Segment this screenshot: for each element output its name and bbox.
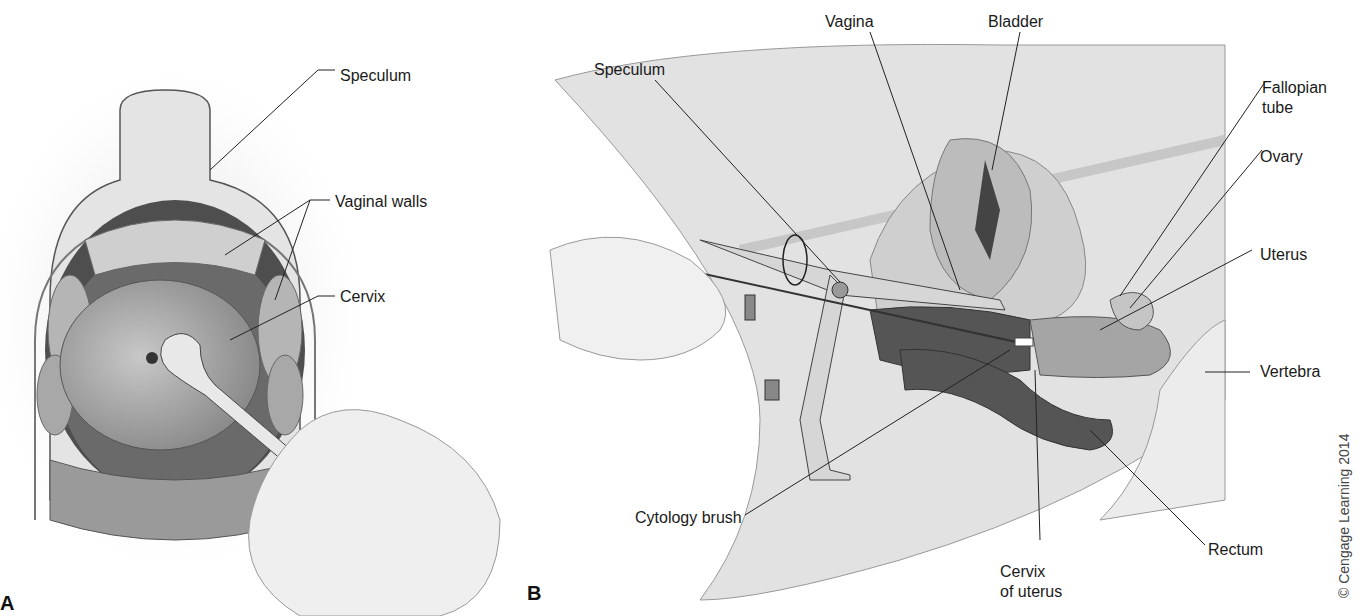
label-vagina: Vagina — [825, 12, 874, 31]
label-rectum: Rectum — [1208, 540, 1263, 559]
label-ovary: Ovary — [1260, 147, 1303, 166]
label-cytology-brush: Cytology brush — [635, 508, 742, 527]
label-vertebra: Vertebra — [1260, 362, 1320, 381]
label-fallopian-tube-line2: tube — [1262, 98, 1293, 117]
label-cervix-of-uterus-line2: of uterus — [1000, 582, 1062, 601]
label-cervix-a: Cervix — [340, 287, 385, 306]
label-uterus: Uterus — [1260, 245, 1307, 264]
label-speculum-a: Speculum — [340, 66, 411, 85]
label-speculum-b: Speculum — [594, 60, 665, 79]
label-vaginal-walls: Vaginal walls — [335, 192, 427, 211]
label-bladder: Bladder — [988, 12, 1043, 31]
panel-letter-b: B — [527, 582, 541, 605]
label-cervix-of-uterus-line1: Cervix — [1000, 562, 1045, 581]
copyright-credit: © Cengage Learning 2014 — [1336, 434, 1352, 598]
label-fallopian-tube-line1: Fallopian — [1262, 78, 1327, 97]
panel-letter-a: A — [0, 592, 14, 615]
panel-a-illustration — [0, 40, 500, 616]
